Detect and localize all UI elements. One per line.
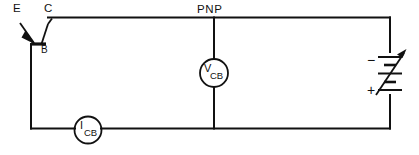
label-base: B — [41, 45, 48, 55]
ammeter-symbol: I — [80, 120, 83, 131]
transistor-collector-bend — [48, 19, 52, 25]
transistor-collector-lead — [42, 24, 49, 44]
battery-positive-sign: + — [367, 83, 375, 97]
label-collector: C — [44, 3, 52, 15]
ammeter-subscript: CB — [84, 128, 97, 138]
emitter-arrowhead-icon — [22, 31, 36, 45]
circuit-diagram: E C B PNP V CB I CB − + — [0, 0, 419, 155]
label-emitter: E — [13, 3, 21, 15]
voltmeter-subscript: CB — [210, 71, 223, 81]
battery-negative-sign: − — [367, 53, 375, 67]
label-device-type: PNP — [197, 4, 222, 16]
